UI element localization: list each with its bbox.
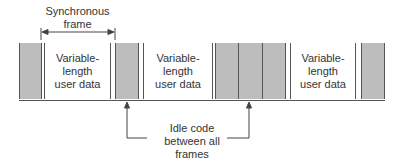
frame-span-arrow <box>41 28 115 40</box>
arrows-layer <box>0 0 403 164</box>
idle-arrow-right <box>227 102 252 138</box>
idle-arrow-left <box>125 102 148 138</box>
